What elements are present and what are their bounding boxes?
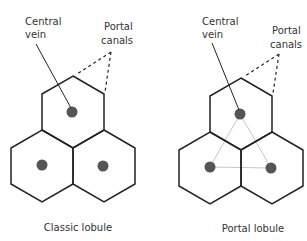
central-vein-dot bbox=[67, 107, 78, 118]
portal-canal-dashed-line bbox=[105, 52, 111, 92]
central-vein-dot bbox=[98, 161, 109, 172]
portal-canal-dashed-line bbox=[273, 54, 279, 93]
central-vein-dot bbox=[266, 163, 277, 174]
central-vein-label: vein bbox=[202, 29, 223, 40]
portal-lobule-diagram: Central vein Portal canals Portal lobule bbox=[179, 16, 303, 234]
classic-lobule-diagram: Central vein Portal canals Classic lobul… bbox=[11, 16, 135, 233]
portal-canal-dashed-line bbox=[77, 52, 111, 74]
classic-lobule-caption: Classic lobule bbox=[44, 222, 112, 233]
central-vein-label: Central bbox=[25, 16, 61, 27]
central-vein-dot bbox=[235, 109, 246, 120]
portal-canals-label: Portal bbox=[272, 25, 301, 36]
central-vein-leader-line bbox=[212, 43, 239, 110]
portal-canals-label: canals bbox=[270, 39, 302, 50]
central-vein-dot bbox=[205, 162, 216, 173]
portal-canals-label: canals bbox=[101, 35, 133, 46]
portal-canals-label: Portal bbox=[104, 21, 133, 32]
central-vein-dot bbox=[37, 160, 48, 171]
portal-canal-dashed-line bbox=[245, 54, 279, 76]
portal-lobule-caption: Portal lobule bbox=[222, 223, 284, 234]
liver-lobule-diagram: Central vein Portal canals Classic lobul… bbox=[0, 0, 307, 241]
central-vein-label: vein bbox=[25, 29, 46, 40]
central-vein-label: Central bbox=[202, 16, 238, 27]
